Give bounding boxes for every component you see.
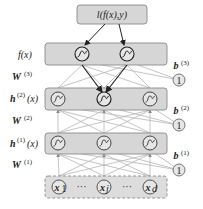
output-node-1: [75, 47, 89, 61]
svg-text:1: 1: [177, 120, 182, 131]
svg-text:x: x: [99, 182, 105, 193]
svg-text:(x): (x): [27, 138, 39, 150]
bias-node-3: 1 b (3): [173, 59, 190, 86]
svg-text:(1): (1): [17, 136, 26, 144]
hidden2-node-2: [97, 92, 111, 106]
bias-label-3: b: [174, 60, 179, 71]
svg-text:1: 1: [177, 75, 182, 86]
hidden1-node-2: [97, 136, 111, 150]
svg-text:W: W: [12, 115, 22, 126]
svg-text:1: 1: [62, 183, 67, 194]
svg-text:(3): (3): [24, 70, 33, 78]
weight-label-1: W (1): [12, 158, 33, 170]
svg-text:(2): (2): [181, 104, 190, 112]
input-node-x1: x 1: [52, 180, 67, 194]
ellipsis-2: ···: [122, 181, 132, 192]
input-node-xd: x d: [143, 180, 158, 194]
svg-text:W: W: [12, 71, 22, 82]
weight-label-3: W (3): [12, 70, 33, 82]
hidden1-node-1: [51, 136, 65, 150]
hidden2-layer-label: h (2) (x): [10, 91, 39, 105]
loss-label: l(f(x),y): [97, 9, 128, 21]
svg-text:x: x: [54, 182, 60, 193]
svg-text:(1): (1): [181, 149, 190, 157]
svg-text:(3): (3): [181, 59, 190, 67]
hidden2-node-1: [51, 92, 65, 106]
bias-node-1: 1 b (1): [173, 149, 190, 176]
output-node-2: [120, 47, 134, 61]
svg-text:x: x: [145, 182, 151, 193]
bias-label-1: b: [174, 150, 179, 161]
loss-edges: [85, 24, 124, 45]
bias-node-2: 1 b (2): [173, 104, 190, 131]
weight-label-2: W (2): [12, 114, 33, 126]
ellipsis-1: ···: [77, 181, 87, 192]
svg-text:(2): (2): [17, 91, 26, 99]
svg-text:W: W: [12, 159, 22, 170]
output-layer-label: f(x): [18, 49, 33, 61]
svg-text:(1): (1): [24, 158, 33, 166]
hidden1-layer-label: h (1) (x): [10, 136, 39, 150]
svg-text:1: 1: [177, 165, 182, 176]
svg-text:h: h: [10, 138, 16, 149]
svg-text:h: h: [10, 93, 16, 104]
hidden2-node-3: [143, 92, 157, 106]
bias-label-2: b: [174, 105, 179, 116]
output-layer-box: [45, 43, 167, 65]
svg-text:(x): (x): [27, 93, 39, 105]
hidden1-node-3: [143, 136, 157, 150]
input-node-xj: x j: [97, 180, 111, 194]
svg-text:(2): (2): [24, 114, 33, 122]
network-diagram: l(f(x),y): [0, 0, 203, 209]
